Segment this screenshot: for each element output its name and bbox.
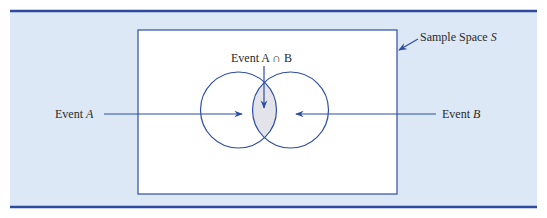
event-b-label: Event B: [442, 107, 481, 121]
venn-diagram: Sample Space S Event A ∩ B Event A Event…: [0, 0, 547, 218]
event-a-label: Event A: [55, 107, 94, 121]
intersection-label: Event A ∩ B: [231, 51, 292, 65]
sample-space-label: Sample Space S: [420, 30, 497, 44]
